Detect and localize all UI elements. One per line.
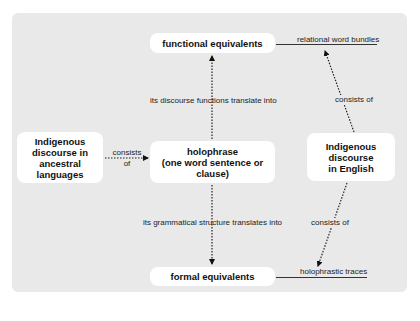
of-left-label: of [106, 159, 148, 169]
grammatical-structure-label: its grammatical structure translates int… [140, 218, 285, 228]
holophrastic-rule [276, 277, 367, 278]
discourse-functions-label: its discourse functions translate into [150, 96, 275, 106]
formal-equivalents-label: formal equivalents [171, 271, 255, 282]
ancestral-line-1: Indigenous [35, 136, 86, 147]
ancestral-line-2: discourse in [32, 147, 88, 158]
english-line-2: discourse [329, 152, 374, 163]
holophrase-node: holophrase (one word sentence or clause) [150, 141, 275, 183]
english-line-3: in English [328, 163, 373, 174]
relational-rule [276, 44, 377, 45]
english-line-1: Indigenous [326, 141, 377, 152]
formal-equivalents-node: formal equivalents [150, 267, 275, 286]
ancestral-line-3: ancestral languages [17, 158, 103, 180]
holophrastic-traces-label: holophrastic traces [300, 267, 367, 277]
holophrase-sublabel: (one word sentence or clause) [150, 157, 275, 179]
consists-of-top-label: consists of [324, 95, 384, 105]
consists-of-bottom-label: consists of [300, 218, 360, 228]
indigenous-english-node: Indigenous discourse in English [307, 133, 395, 181]
consists-left-label: consists [106, 148, 148, 158]
functional-equivalents-node: functional equivalents [150, 33, 275, 53]
arrow-english-to-relational [325, 51, 354, 132]
holophrase-label: holophrase [187, 146, 238, 157]
functional-equivalents-label: functional equivalents [162, 38, 262, 49]
indigenous-ancestral-node: Indigenous discourse in ancestral langua… [17, 132, 103, 183]
